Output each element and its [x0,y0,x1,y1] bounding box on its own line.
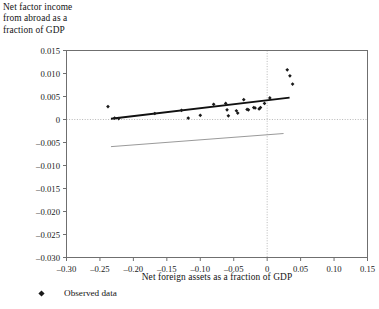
y-tick-label: –0.020 [35,207,61,217]
data-point [263,102,267,106]
y-tick-label: –0.005 [35,138,60,148]
gridlines [67,51,368,258]
legend-label-observed-data: Observed data [64,288,117,298]
data-point [242,98,246,102]
data-point [198,114,202,118]
chart-figure: Net factor income from abroad as a fract… [0,0,379,309]
trend-lines [111,98,290,147]
observed-data-marker-icon [30,290,52,297]
data-point [225,108,229,112]
y-tick-label: 0.010 [40,69,60,79]
x-axis-title: Net foreign assets as a fraction of GDP [66,272,368,283]
data-point [227,114,231,118]
axis-ticks [63,51,368,262]
y-tick-label: –0.030 [35,253,61,263]
plot-area: –0.30–0.25–0.20–0.15–0.10–0.0500.050.100… [0,0,379,309]
y-tick-label: 0 [56,115,61,125]
y-tick-label: –0.025 [35,230,60,240]
data-point [291,82,295,86]
chart-legend: Observed data [30,288,117,298]
data-point [106,105,110,109]
data-point [288,74,292,78]
data-point [180,108,184,112]
y-tick-label: 0.005 [40,92,60,102]
data-point [153,112,157,116]
y-tick-label: –0.010 [35,161,61,171]
plot-frame [67,51,368,258]
data-point [285,68,289,72]
y-tick-label: 0.015 [40,46,60,56]
tick-labels: –0.30–0.25–0.20–0.15–0.10–0.0500.050.100… [35,46,375,274]
y-tick-label: –0.015 [35,184,60,194]
reference-line [111,134,284,147]
scatter-points [106,68,294,120]
